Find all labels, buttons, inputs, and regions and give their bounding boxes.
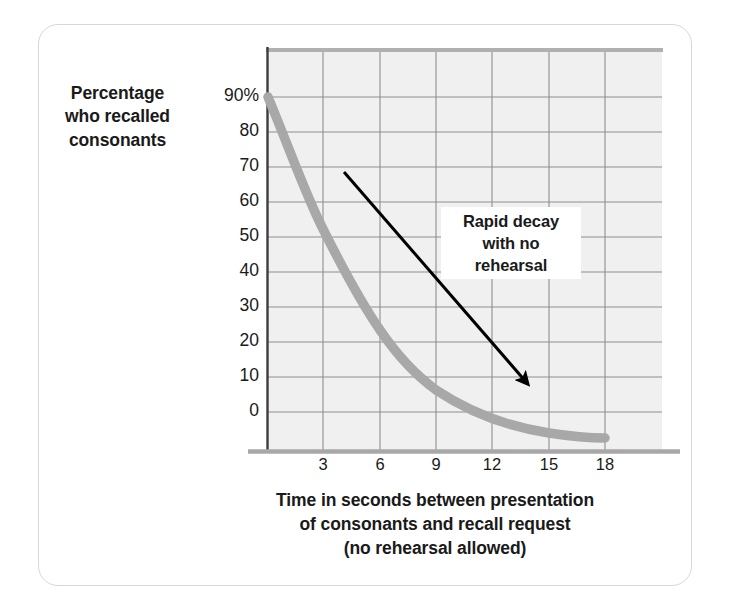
x-tick-label-12: 12 xyxy=(472,456,512,473)
figure-root: Percentage who recalled consonants 90% 8… xyxy=(0,0,730,613)
x-tick-label-6: 6 xyxy=(360,456,400,473)
y-tick-label-80: 80 xyxy=(199,122,259,140)
x-axis-caption: Time in seconds between presentation of … xyxy=(200,489,670,560)
y-tick-label-60: 60 xyxy=(199,192,259,210)
annotation-callout: Rapid decay with no rehearsal xyxy=(441,207,581,279)
y-axis-title: Percentage who recalled consonants xyxy=(30,82,205,152)
y-tick-label-20: 20 xyxy=(199,332,259,350)
x-tick-label-15: 15 xyxy=(529,456,569,473)
y-tick-label-0: 0 xyxy=(199,402,259,420)
y-tick-label-70: 70 xyxy=(199,157,259,175)
x-tick-label-3: 3 xyxy=(303,456,343,473)
x-tick-label-9: 9 xyxy=(416,456,456,473)
x-tick-label-18: 18 xyxy=(585,456,625,473)
y-tick-label-90: 90% xyxy=(199,87,259,105)
y-tick-label-10: 10 xyxy=(199,367,259,385)
y-tick-label-30: 30 xyxy=(199,297,259,315)
y-tick-label-50: 50 xyxy=(199,227,259,245)
y-tick-label-40: 40 xyxy=(199,262,259,280)
